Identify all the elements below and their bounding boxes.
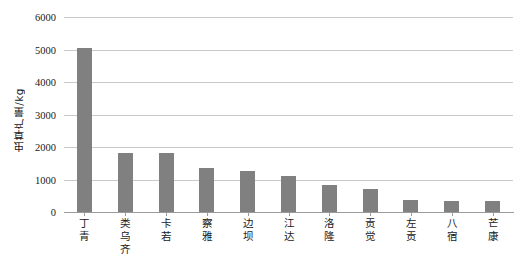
x-tick-label-char: 坝 [240, 230, 256, 243]
x-tick-label-char: 芒 [485, 217, 501, 230]
x-tick-label-char: 贡 [362, 217, 378, 230]
x-tick [248, 212, 249, 216]
x-tick-label-char: 宿 [444, 230, 460, 243]
bar [322, 185, 337, 212]
x-tick [289, 212, 290, 216]
x-tick-label-char: 左 [403, 217, 419, 230]
y-tick-label: 6000 [35, 12, 56, 23]
x-tick-label-char: 觉 [362, 230, 378, 243]
y-tick-label: 3000 [35, 109, 56, 120]
x-tick-label: 察雅 [199, 217, 215, 243]
x-tick [166, 212, 167, 216]
x-tick-label: 左贡 [403, 217, 419, 243]
x-tick [493, 212, 494, 216]
y-tick-label: 4000 [35, 77, 56, 88]
bar-series [64, 17, 513, 212]
x-tick-label: 江达 [281, 217, 297, 243]
x-tick [207, 212, 208, 216]
y-tick-label: 5000 [35, 44, 56, 55]
y-axis-tick-labels: 0100020003000400050006000 [22, 0, 60, 273]
bar [240, 171, 255, 212]
x-tick-label-char: 八 [444, 217, 460, 230]
x-tick-label-char: 丁 [76, 217, 92, 230]
bar [363, 189, 378, 212]
x-tick [329, 212, 330, 216]
x-tick-label: 芒康 [485, 217, 501, 243]
x-tick [452, 212, 453, 216]
x-tick-label-char: 青 [76, 230, 92, 243]
bar [444, 201, 459, 212]
x-tick-label-char: 边 [240, 217, 256, 230]
plot-area [64, 17, 513, 212]
bar [281, 176, 296, 212]
bar [77, 48, 92, 212]
bar [485, 201, 500, 212]
x-tick-label: 洛隆 [321, 217, 337, 243]
x-tick-label-char: 洛 [321, 217, 337, 230]
x-tick-label-char: 乌 [117, 230, 133, 243]
y-tick-label: 2000 [35, 142, 56, 153]
x-tick-label-char: 康 [485, 230, 501, 243]
x-tick-label: 卡若 [158, 217, 174, 243]
bar [118, 153, 133, 212]
x-tick [411, 212, 412, 216]
x-tick-label-char: 类 [117, 217, 133, 230]
bar [159, 153, 174, 212]
x-tick-label: 贡觉 [362, 217, 378, 243]
x-tick-label: 类乌齐 [117, 217, 133, 256]
x-tick [125, 212, 126, 216]
x-tick-label-char: 贡 [403, 230, 419, 243]
x-tick-label-char: 达 [281, 230, 297, 243]
x-tick-label: 八宿 [444, 217, 460, 243]
bar [199, 168, 214, 212]
x-tick [84, 212, 85, 216]
bar [403, 200, 418, 212]
x-tick-label-char: 卡 [158, 217, 174, 230]
x-tick-label-char: 察 [199, 217, 215, 230]
x-tick-label-char: 江 [281, 217, 297, 230]
x-axis-tick-labels: 丁青类乌齐卡若察雅边坝江达洛隆贡觉左贡八宿芒康 [64, 217, 513, 273]
x-tick-label-char: 齐 [117, 243, 133, 256]
x-tick-label-char: 隆 [321, 230, 337, 243]
x-tick-label-char: 若 [158, 230, 174, 243]
y-tick-label: 1000 [35, 174, 56, 185]
x-tick-label: 边坝 [240, 217, 256, 243]
x-tick [370, 212, 371, 216]
x-tick-label: 丁青 [76, 217, 92, 243]
y-tick-label: 0 [51, 207, 56, 218]
x-tick-label-char: 雅 [199, 230, 215, 243]
bar-chart: 虫草产量/kg 0100020003000400050006000 丁青类乌齐卡… [0, 0, 530, 273]
